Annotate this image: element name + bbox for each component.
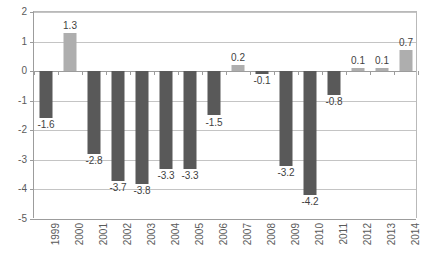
bar-value-label: -3.2 [277,167,294,178]
x-tick-label-2014: 2014 [410,223,421,245]
x-tick-label-2003: 2003 [146,223,157,245]
bar-slot: -3.3 [154,12,178,218]
bar-slot: -4.2 [298,12,322,218]
bar[interactable] [160,71,173,169]
bar-slot: -3.7 [106,12,130,218]
x-tick-label-2011: 2011 [338,223,349,245]
bar[interactable] [352,68,365,71]
bar[interactable] [256,71,269,74]
bar-value-label: -3.7 [109,182,126,193]
bar[interactable] [376,68,389,71]
bar[interactable] [208,71,221,115]
bar-value-label: -0.8 [325,96,342,107]
bar[interactable] [112,71,125,180]
bar-slot: -1.6 [34,12,58,218]
plot-area: -1.61.3-2.8-3.7-3.8-3.3-3.3-1.50.2-0.1-3… [33,11,417,218]
bar[interactable] [40,71,53,118]
x-tick-mark [418,71,419,75]
bar-value-label: 1.3 [63,20,77,31]
bar-value-label: -2.8 [85,155,102,166]
bar-value-label: 0.1 [351,55,365,66]
x-tick-label-2002: 2002 [122,223,133,245]
gridline-neg5 [34,219,416,220]
bar-slot: 0.1 [370,12,394,218]
bar-slot: 1.3 [58,12,82,218]
bar-slot: -3.2 [274,12,298,218]
bar-value-label: -3.3 [157,170,174,181]
y-tick-label: 1 [21,35,27,46]
bar-value-label: -0.1 [253,75,270,86]
x-tick-label-2007: 2007 [242,223,253,245]
x-tick-label-2012: 2012 [362,223,373,245]
x-tick-label-2009: 2009 [290,223,301,245]
bar[interactable] [136,71,149,183]
bar[interactable] [88,71,101,154]
bar-value-label: 0.1 [375,55,389,66]
bar[interactable] [280,71,293,166]
y-tick-label: -3 [18,153,27,164]
bar-value-label: 0.2 [231,52,245,63]
bar[interactable] [64,33,77,71]
y-tick-label: -2 [18,124,27,135]
bar-value-label: -3.3 [181,170,198,181]
bar-slot: 0.2 [226,12,250,218]
bar-slot: -3.3 [178,12,202,218]
bar-value-label: 0.7 [399,37,413,48]
y-tick-label: 0 [21,65,27,76]
bar-slot: -3.8 [130,12,154,218]
y-tick-label: -4 [18,183,27,194]
bar-slot: -2.8 [82,12,106,218]
x-tick-mark [34,71,35,75]
y-tick-mark [30,219,34,220]
bar-slot: -1.5 [202,12,226,218]
x-tick-label-1999: 1999 [50,223,61,245]
bar[interactable] [328,71,341,95]
x-tick-label-2000: 2000 [74,223,85,245]
x-tick-label-2006: 2006 [218,223,229,245]
bar-chart: 210-1-2-3-4-5 -1.61.3-2.8-3.7-3.8-3.3-3.… [0,0,425,262]
y-tick-label: -5 [18,213,27,224]
bar[interactable] [304,71,317,195]
bar-slot: -0.1 [250,12,274,218]
x-tick-label-2010: 2010 [314,223,325,245]
bar-slot: 0.7 [394,12,418,218]
bar[interactable] [184,71,197,169]
bar-value-label: -1.5 [205,117,222,128]
bar-value-label: -4.2 [301,196,318,207]
bar[interactable] [400,50,413,71]
x-tick-label-2004: 2004 [170,223,181,245]
bar-slot: 0.1 [346,12,370,218]
x-tick-label-2013: 2013 [386,223,397,245]
y-tick-label: 2 [21,6,27,17]
x-tick-label-2005: 2005 [194,223,205,245]
bar-value-label: -3.8 [133,185,150,196]
bar-slot: -0.8 [322,12,346,218]
bar[interactable] [232,65,245,71]
y-tick-label: -1 [18,94,27,105]
x-tick-label-2008: 2008 [266,223,277,245]
bar-value-label: -1.6 [37,119,54,130]
x-tick-label-2001: 2001 [98,223,109,245]
